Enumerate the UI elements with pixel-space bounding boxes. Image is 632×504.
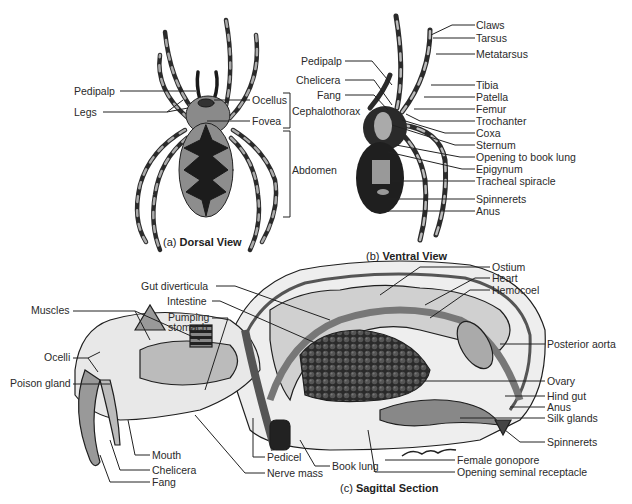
dorsal-spider xyxy=(137,20,276,250)
label-trochanter: Trochanter xyxy=(476,116,526,127)
label-claws: Claws xyxy=(476,20,505,31)
label-poison-gland: Poison gland xyxy=(10,378,71,389)
label-pedipalp-ventral: Pedipalp xyxy=(301,56,342,67)
label-female-gonopore: Female gonopore xyxy=(457,455,539,466)
label-coxa: Coxa xyxy=(476,128,501,139)
label-chelicera-sagittal: Chelicera xyxy=(152,465,196,476)
caption-title: Ventral View xyxy=(383,250,448,262)
label-stomach: stomach xyxy=(168,322,208,333)
label-ocelli: Ocelli xyxy=(44,352,70,363)
label-sternum: Sternum xyxy=(476,140,516,151)
label-cephalothorax: Cephalothorax xyxy=(292,106,360,117)
caption-prefix: (b) xyxy=(366,250,379,262)
label-nerve-mass: Nerve mass xyxy=(267,468,323,479)
label-tibia: Tibia xyxy=(476,80,498,91)
label-fang-ventral: Fang xyxy=(317,90,341,101)
label-ovary: Ovary xyxy=(547,376,575,387)
artist-signature xyxy=(402,449,456,456)
label-fovea: Fovea xyxy=(252,116,281,127)
label-spinnerets-ventral: Spinnerets xyxy=(476,194,526,205)
label-book-lung: Book lung xyxy=(332,461,379,472)
label-epigynum: Epigynum xyxy=(476,164,523,175)
label-opening-seminal-receptacle: Opening seminal receptacle xyxy=(457,467,587,478)
label-legs: Legs xyxy=(74,107,97,118)
label-intestine: Intestine xyxy=(167,296,207,307)
caption-prefix: (a) xyxy=(163,236,176,248)
label-patella: Patella xyxy=(476,92,508,103)
label-posterior-aorta: Posterior aorta xyxy=(547,339,616,350)
label-abdomen: Abdomen xyxy=(292,165,337,176)
caption-ventral: (b) Ventral View xyxy=(366,250,447,262)
label-pedicel: Pedicel xyxy=(267,452,301,463)
caption-title: Dorsal View xyxy=(180,236,242,248)
caption-dorsal: (a) Dorsal View xyxy=(163,236,242,248)
label-opening-book-lung: Opening to book lung xyxy=(476,152,576,163)
label-muscles: Muscles xyxy=(31,305,70,316)
label-tarsus: Tarsus xyxy=(476,33,507,44)
caption-title: Sagittal Section xyxy=(356,482,439,494)
label-anus-ventral: Anus xyxy=(476,206,500,217)
label-silk-glands: Silk glands xyxy=(547,413,598,424)
label-chelicera-ventral: Chelicera xyxy=(296,75,340,86)
label-tracheal-spiracle: Tracheal spiracle xyxy=(476,176,556,187)
label-ocellus: Ocellus xyxy=(252,95,287,106)
caption-prefix: (c) xyxy=(340,482,353,494)
label-hemocoel: Hemocoel xyxy=(492,285,539,296)
label-fang-sagittal: Fang xyxy=(152,477,176,488)
label-heart: Heart xyxy=(492,273,518,284)
label-metatarsus: Metatarsus xyxy=(476,49,528,60)
label-spinnerets-sagittal: Spinnerets xyxy=(547,437,597,448)
label-pedipalp-dorsal: Pedipalp xyxy=(74,86,115,97)
label-mouth: Mouth xyxy=(152,450,181,461)
caption-sagittal: (c) Sagittal Section xyxy=(340,482,438,494)
label-gut-diverticula: Gut diverticula xyxy=(141,281,208,292)
label-femur: Femur xyxy=(476,104,506,115)
